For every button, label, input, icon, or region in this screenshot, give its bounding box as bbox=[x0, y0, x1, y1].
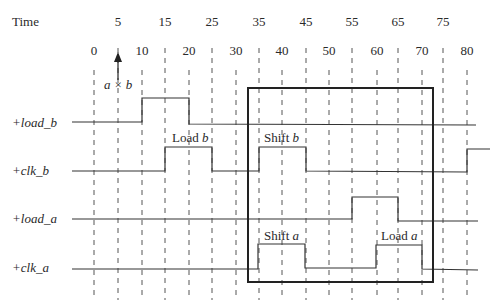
annotation-shift-b: Shift b bbox=[264, 130, 300, 145]
tick-label: 50 bbox=[323, 43, 336, 58]
tick-label: 15 bbox=[159, 14, 172, 29]
timing-diagram: Time 515253545556575 01020304050607080 a… bbox=[0, 0, 490, 303]
annotation-shift-a: Shift a bbox=[264, 228, 300, 243]
arrow-up-icon bbox=[114, 52, 122, 62]
signal-label-load-b: +load_b bbox=[12, 115, 57, 130]
highlight-box bbox=[248, 88, 433, 282]
tick-label: 5 bbox=[115, 14, 122, 29]
grid-lines bbox=[94, 48, 467, 300]
tick-label: 75 bbox=[437, 14, 450, 29]
axb-marker: a × b bbox=[104, 52, 133, 92]
tick-label: 35 bbox=[253, 14, 266, 29]
tick-label: 70 bbox=[416, 43, 429, 58]
signal-label-load-a: +load_a bbox=[12, 211, 57, 226]
waveform-load-b bbox=[72, 98, 476, 125]
marker-label: a × b bbox=[104, 77, 133, 92]
tick-label: 25 bbox=[206, 14, 219, 29]
tick-label: 10 bbox=[136, 43, 149, 58]
annotation-load-b: Load b bbox=[172, 130, 209, 145]
tick-label: 45 bbox=[300, 14, 313, 29]
tick-label: 20 bbox=[183, 43, 196, 58]
annotation-load-a: Load a bbox=[381, 228, 418, 243]
waveform-load-a bbox=[72, 197, 478, 221]
tick-label: 60 bbox=[371, 43, 384, 58]
tick-label: 65 bbox=[392, 14, 405, 29]
signal-label-clk-a: +clk_a bbox=[12, 260, 49, 275]
tick-label: 80 bbox=[461, 43, 474, 58]
signal-label-clk-b: +clk_b bbox=[12, 163, 49, 178]
tick-label: 40 bbox=[276, 43, 289, 58]
time-label: Time bbox=[12, 14, 39, 29]
waveform-clk-b bbox=[72, 147, 490, 172]
waveform-clk-a bbox=[72, 244, 478, 270]
top-tick-labels: 515253545556575 bbox=[115, 14, 450, 29]
tick-label: 55 bbox=[346, 14, 359, 29]
tick-label: 0 bbox=[91, 43, 98, 58]
bottom-tick-labels: 01020304050607080 bbox=[91, 43, 474, 58]
tick-label: 30 bbox=[230, 43, 243, 58]
